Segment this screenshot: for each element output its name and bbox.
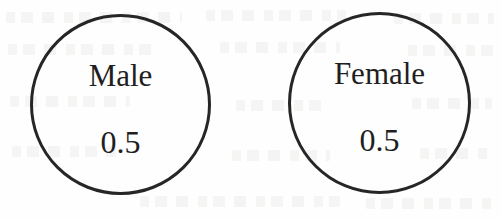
circle-male: Male 0.5 (30, 14, 211, 195)
bleed-line (366, 198, 494, 209)
bleed-line (206, 10, 346, 21)
circle-male-value: 0.5 (33, 126, 208, 158)
bleed-line (140, 196, 340, 207)
circle-female-label: Female (291, 58, 468, 89)
figure-canvas: Male 0.5 Female 0.5 (0, 0, 501, 218)
circle-male-label: Male (33, 60, 208, 91)
circle-female: Female 0.5 (288, 12, 471, 194)
circle-female-value: 0.5 (291, 124, 468, 156)
